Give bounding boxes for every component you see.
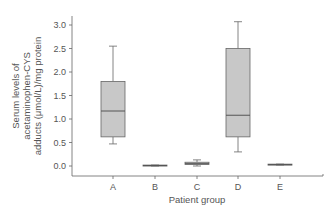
y-tick-label: 0.5 [53, 138, 66, 148]
y-tick-label: 0.0 [53, 161, 66, 171]
box-iqr [226, 49, 250, 137]
y-tick-label: 1.0 [53, 114, 66, 124]
y-tick-label: 1.5 [53, 91, 66, 101]
x-tick-label-E: E [277, 182, 283, 192]
x-tick-label-C: C [194, 182, 201, 192]
x-axis-label: Patient group [169, 194, 226, 205]
y-tick-label: 2.5 [53, 44, 66, 54]
y-tick-label: 3.0 [53, 20, 66, 30]
box-group-A [101, 46, 125, 144]
box-group-C [185, 160, 209, 166]
box-group-B [143, 165, 167, 166]
x-tick-label-B: B [152, 182, 158, 192]
box-plot-chart: 0.00.51.01.52.02.53.0ABCDEPatient groupS… [0, 0, 336, 219]
x-tick-label-A: A [110, 182, 116, 192]
box-group-D [226, 22, 250, 152]
y-axis-label-line: Serum levels of [10, 63, 21, 129]
boxes [101, 22, 292, 166]
y-axis-label-line: acetaminophen-CYS [21, 52, 32, 140]
box-iqr [101, 81, 125, 136]
y-axis-label-line: adducts (μmol/L)/mg protein [32, 37, 43, 155]
box-group-E [268, 164, 292, 165]
y-tick-label: 2.0 [53, 67, 66, 77]
x-tick-label-D: D [235, 182, 242, 192]
